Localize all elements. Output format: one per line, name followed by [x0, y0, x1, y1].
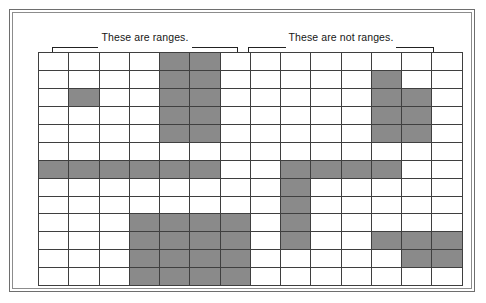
grid-cell[interactable] [251, 143, 280, 160]
grid-cell[interactable] [251, 232, 280, 249]
grid-cell[interactable] [402, 107, 431, 124]
grid-cell[interactable] [402, 125, 431, 142]
grid-cell[interactable] [402, 232, 431, 249]
grid-cell[interactable] [311, 107, 340, 124]
grid-cell[interactable] [130, 250, 159, 267]
grid-cell[interactable] [190, 71, 219, 88]
grid-cell[interactable] [69, 232, 98, 249]
grid-cell[interactable] [100, 125, 129, 142]
grid-cell[interactable] [39, 107, 68, 124]
grid-cell[interactable] [69, 179, 98, 196]
grid-cell[interactable] [69, 161, 98, 178]
grid-cell[interactable] [190, 197, 219, 214]
grid-cell[interactable] [372, 232, 401, 249]
grid-cell[interactable] [130, 53, 159, 70]
grid-cell[interactable] [281, 71, 310, 88]
grid-cell[interactable] [130, 125, 159, 142]
grid-cell[interactable] [69, 143, 98, 160]
grid-cell[interactable] [402, 214, 431, 231]
grid-cell[interactable] [221, 214, 250, 231]
grid-cell[interactable] [39, 214, 68, 231]
grid-cell[interactable] [311, 125, 340, 142]
grid-cell[interactable] [160, 89, 189, 106]
grid-cell[interactable] [432, 268, 461, 285]
grid-cell[interactable] [432, 53, 461, 70]
grid-cell[interactable] [342, 71, 371, 88]
grid-cell[interactable] [160, 232, 189, 249]
grid-cell[interactable] [190, 250, 219, 267]
grid-cell[interactable] [432, 232, 461, 249]
grid-cell[interactable] [39, 268, 68, 285]
grid-cell[interactable] [100, 179, 129, 196]
grid-cell[interactable] [130, 161, 159, 178]
grid-cell[interactable] [39, 89, 68, 106]
grid-cell[interactable] [311, 53, 340, 70]
grid-cell[interactable] [402, 161, 431, 178]
grid-cell[interactable] [432, 250, 461, 267]
grid-cell[interactable] [251, 268, 280, 285]
grid-cell[interactable] [130, 268, 159, 285]
grid-cell[interactable] [281, 232, 310, 249]
grid-cell[interactable] [160, 71, 189, 88]
grid-cell[interactable] [100, 89, 129, 106]
grid-cell[interactable] [342, 268, 371, 285]
grid-cell[interactable] [311, 250, 340, 267]
grid-cell[interactable] [372, 125, 401, 142]
grid-cell[interactable] [342, 161, 371, 178]
grid-cell[interactable] [221, 161, 250, 178]
grid-cell[interactable] [281, 89, 310, 106]
grid-cell[interactable] [311, 71, 340, 88]
grid-cell[interactable] [100, 214, 129, 231]
grid-cell[interactable] [311, 161, 340, 178]
grid-cell[interactable] [69, 107, 98, 124]
grid-cell[interactable] [100, 268, 129, 285]
grid-cell[interactable] [130, 143, 159, 160]
grid-cell[interactable] [372, 143, 401, 160]
grid-cell[interactable] [39, 161, 68, 178]
grid-cell[interactable] [190, 214, 219, 231]
grid-cell[interactable] [100, 71, 129, 88]
grid-cell[interactable] [160, 53, 189, 70]
grid-cell[interactable] [190, 107, 219, 124]
grid-cell[interactable] [251, 197, 280, 214]
grid-cell[interactable] [281, 179, 310, 196]
grid-cell[interactable] [221, 232, 250, 249]
grid-cell[interactable] [160, 197, 189, 214]
grid-cell[interactable] [402, 268, 431, 285]
grid-cell[interactable] [251, 53, 280, 70]
grid-cell[interactable] [402, 143, 431, 160]
grid-cell[interactable] [160, 268, 189, 285]
grid-cell[interactable] [432, 71, 461, 88]
grid-cell[interactable] [342, 214, 371, 231]
grid-cell[interactable] [251, 214, 280, 231]
grid-cell[interactable] [402, 71, 431, 88]
grid-cell[interactable] [190, 89, 219, 106]
grid-cell[interactable] [221, 89, 250, 106]
grid-cell[interactable] [190, 161, 219, 178]
grid-cell[interactable] [251, 107, 280, 124]
grid-cell[interactable] [130, 232, 159, 249]
grid-cell[interactable] [251, 71, 280, 88]
grid-cell[interactable] [39, 179, 68, 196]
grid-cell[interactable] [69, 268, 98, 285]
grid-cell[interactable] [432, 161, 461, 178]
grid-cell[interactable] [221, 179, 250, 196]
grid-cell[interactable] [130, 89, 159, 106]
grid-cell[interactable] [372, 214, 401, 231]
grid-cell[interactable] [39, 197, 68, 214]
grid-cell[interactable] [402, 250, 431, 267]
grid-cell[interactable] [432, 214, 461, 231]
grid-cell[interactable] [311, 89, 340, 106]
grid-cell[interactable] [372, 89, 401, 106]
grid-cell[interactable] [160, 250, 189, 267]
grid-cell[interactable] [311, 179, 340, 196]
grid-cell[interactable] [221, 197, 250, 214]
grid-cell[interactable] [39, 143, 68, 160]
grid-cell[interactable] [100, 197, 129, 214]
grid-cell[interactable] [69, 214, 98, 231]
grid-cell[interactable] [372, 250, 401, 267]
grid-cell[interactable] [342, 232, 371, 249]
grid-cell[interactable] [39, 232, 68, 249]
grid-cell[interactable] [221, 250, 250, 267]
grid-cell[interactable] [69, 125, 98, 142]
